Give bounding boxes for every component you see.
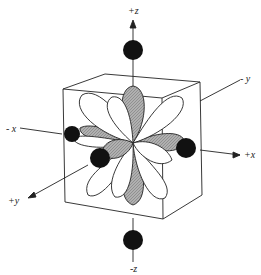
label-neg-x: - x [6, 124, 16, 134]
ligand-neg-z [123, 230, 143, 250]
pos-y-axis [30, 165, 88, 197]
label-pos-z: +z [128, 6, 139, 16]
pos-z-arrowhead [130, 20, 136, 28]
octahedral-orbital-diagram: +z -z +x - x +y - y [0, 0, 261, 275]
ligand-pos-y [90, 148, 110, 168]
label-neg-z: -z [130, 264, 137, 274]
pos-x-arrowhead [233, 152, 240, 158]
neg-y-axis [200, 80, 240, 101]
ligand-pos-z [123, 40, 143, 60]
pos-y-arrowhead [28, 192, 36, 198]
orbital-lobes [74, 86, 184, 205]
label-pos-x: +x [244, 150, 255, 160]
label-neg-y: - y [240, 74, 250, 84]
ligand-neg-x [64, 126, 80, 142]
label-pos-y: +y [8, 196, 19, 206]
diagram-canvas [0, 0, 261, 275]
neg-x-axis [20, 128, 62, 134]
ligand-pos-x [176, 138, 196, 158]
